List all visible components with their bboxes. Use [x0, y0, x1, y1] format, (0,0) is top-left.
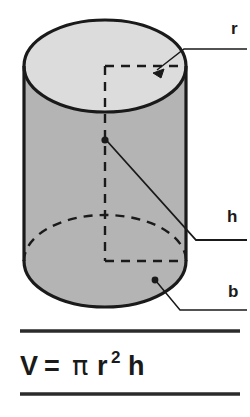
label-height: h — [227, 207, 237, 226]
formula-radius-symbol: r — [97, 351, 108, 381]
formula-equals-sign: = — [44, 351, 60, 381]
label-base: b — [228, 282, 238, 301]
formula-height-symbol: h — [128, 351, 145, 381]
cylinder-volume-figure: r h b V = π r 2 h — [0, 0, 250, 417]
formula-pi-symbol: π — [72, 350, 88, 381]
cylinder-diagram-svg: r h b V = π r 2 h — [0, 0, 250, 417]
volume-formula: V = π r 2 h — [20, 348, 145, 381]
label-radius: r — [231, 19, 238, 38]
formula-volume-symbol: V — [20, 351, 39, 381]
formula-exponent: 2 — [111, 348, 120, 367]
